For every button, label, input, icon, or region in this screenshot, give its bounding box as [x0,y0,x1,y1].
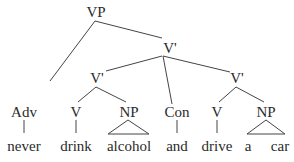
node-vbar-right: V' [230,70,244,86]
edge-vbar-top-vbar-right [163,56,230,72]
word-and: and [166,138,188,154]
node-v-left: V [71,104,82,120]
word-drive: drive [202,138,233,154]
word-drink: drink [60,138,92,154]
node-con: Con [164,104,190,120]
node-vp: VP [86,4,105,20]
word-never: never [7,138,40,154]
edge-vp-adv [50,21,95,81]
edge-vbar-left-np [96,87,126,102]
node-adv: Adv [11,104,37,120]
edge-vbar-right-v [219,87,236,102]
edge-vbar-right-np [236,87,264,102]
np-triangle-a-car [247,120,285,134]
np-triangle-alcohol [108,120,149,134]
syntax-tree: VP V' V' V' Adv V NP Con V NP never drin… [0,0,294,162]
edge-vbar-top-con [163,56,172,104]
node-vbar-top: V' [163,40,177,56]
edge-vbar-top-vbar-left [106,56,162,71]
node-v-right: V [212,104,223,120]
node-np-left: NP [119,104,138,120]
word-a: a [245,138,252,154]
edge-vp-vbar-top [95,21,162,38]
word-car: car [271,138,289,154]
node-vbar-left: V' [90,70,104,86]
edge-vbar-left-v [78,87,96,102]
node-np-right: NP [256,104,275,120]
word-alcohol: alcohol [107,138,151,154]
